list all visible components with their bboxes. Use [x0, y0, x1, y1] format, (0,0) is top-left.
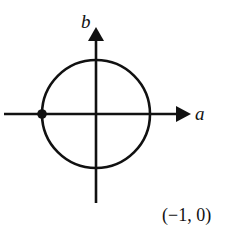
horizontal-axis-arrow-icon [176, 106, 191, 122]
horizontal-axis-label: a [195, 104, 205, 123]
point-marker [37, 109, 47, 119]
point-label: (−1, 0) [162, 206, 211, 224]
vertical-axis-label: b [81, 12, 91, 31]
